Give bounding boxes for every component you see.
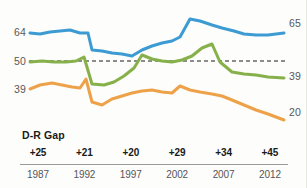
x-axis-year: 2007 [204,169,244,180]
y-axis-label-left-50: 50 [10,55,26,67]
gap-value: +45 [250,147,290,158]
d-r-gap-values-row: +25 +21 +20 +29 +34 +45 [18,147,290,158]
line-chart-plot: 64 50 39 65 39 20 [0,0,307,128]
x-axis-year: 2012 [250,169,290,180]
series-line-independent [30,44,284,85]
x-axis-year: 1987 [18,169,58,180]
d-r-gap-section: D-R Gap +25 +21 +20 +29 +34 +45 1987 199… [0,126,307,188]
series-line-republican [30,79,284,120]
x-axis-year: 1997 [111,169,151,180]
chart-panel: 64 50 39 65 39 20 D-R Gap +25 +21 +20 +2… [0,0,307,188]
y-axis-label-right-65: 65 [289,17,307,29]
gap-value: +34 [204,147,244,158]
y-axis-label-left-39: 39 [10,83,26,95]
y-axis-label-right-39: 39 [289,70,307,82]
y-axis-label-left-64: 64 [10,26,26,38]
x-axis-year: 2002 [157,169,197,180]
gap-value: +29 [157,147,197,158]
gap-value: +20 [111,147,151,158]
gap-divider [20,164,288,165]
x-axis-year-row: 1987 1992 1997 2002 2007 2012 [18,169,290,180]
gap-value: +25 [18,147,58,158]
series-line-democrat [30,19,284,56]
y-axis-label-right-20: 20 [289,106,307,118]
gap-value: +21 [64,147,104,158]
x-axis-year: 1992 [64,169,104,180]
d-r-gap-title: D-R Gap [22,129,65,141]
